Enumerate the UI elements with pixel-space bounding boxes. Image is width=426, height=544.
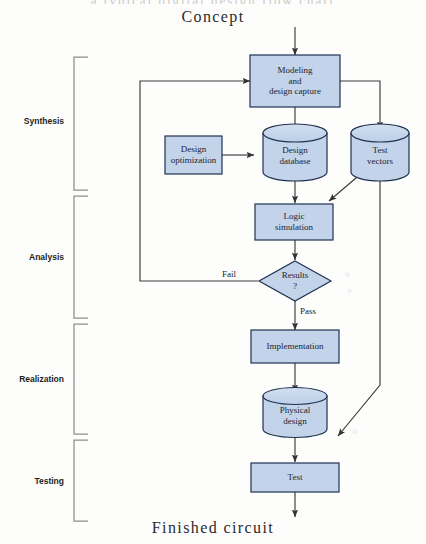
node-test bbox=[251, 463, 339, 492]
edge-label-fail: Fail bbox=[222, 269, 236, 279]
node-results-decision bbox=[259, 261, 331, 301]
scan-speck bbox=[345, 272, 350, 277]
design-flow-diagram: a typical digital design flow chart bbox=[0, 0, 426, 544]
scan-speck bbox=[352, 429, 358, 434]
edge-modeling-testvectors bbox=[340, 81, 380, 129]
phase-bracket-testing bbox=[74, 440, 88, 521]
node-shape-group bbox=[165, 55, 409, 492]
phase-label-analysis: Analysis bbox=[0, 252, 64, 262]
node-test-vectors bbox=[351, 124, 409, 181]
phase-bracket-analysis bbox=[74, 196, 88, 318]
node-modeling bbox=[250, 55, 340, 107]
phase-label-synthesis: Synthesis bbox=[0, 116, 64, 126]
scan-speck bbox=[347, 289, 352, 293]
end-label: Finished circuit bbox=[0, 519, 426, 537]
phase-label-testing: Testing bbox=[0, 476, 64, 486]
node-logic-simulation bbox=[255, 204, 333, 240]
edge-testvectors-test bbox=[338, 178, 380, 436]
node-physical-design bbox=[263, 388, 327, 438]
diagram-canvas bbox=[0, 0, 426, 544]
edge-fail-loop bbox=[140, 81, 258, 281]
start-label: Concept bbox=[0, 8, 426, 26]
phase-bracket-group bbox=[74, 57, 88, 521]
phase-label-realization: Realization bbox=[0, 374, 64, 384]
phase-bracket-synthesis bbox=[74, 57, 88, 190]
node-design-database bbox=[263, 124, 327, 181]
phase-bracket-realization bbox=[74, 324, 88, 434]
node-design-optimization bbox=[165, 136, 222, 174]
node-implementation bbox=[251, 330, 339, 363]
edge-label-pass: Pass bbox=[300, 306, 316, 316]
